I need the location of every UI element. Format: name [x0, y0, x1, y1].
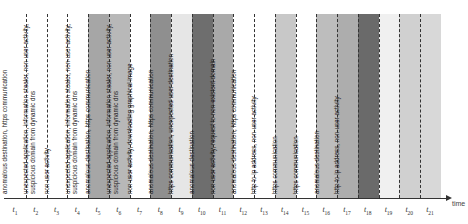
time-tick-label: t19	[379, 205, 399, 216]
time-tick-label: t4	[67, 205, 87, 216]
interval-separator	[420, 14, 421, 198]
time-tick-label: t6	[109, 205, 129, 216]
interval-label: http to ip address, non-user activity	[333, 14, 468, 194]
time-tick-label: t17	[337, 205, 357, 216]
timeline-diagram: software update, anomalous destinationt1…	[0, 0, 468, 224]
time-tick-label: t14	[275, 205, 295, 216]
time-axis	[4, 198, 448, 199]
time-tick-label: t1	[5, 205, 25, 216]
time-tick-label: t3	[47, 205, 67, 216]
axis-label: time	[452, 200, 465, 207]
time-tick-label: t20	[399, 205, 419, 216]
time-tick-label: t18	[358, 205, 378, 216]
timeline-interval: http to ip address, non-user activity	[420, 14, 441, 198]
time-tick-label: t11	[213, 205, 233, 216]
time-tick-label: t8	[150, 205, 170, 216]
time-tick-label: t13	[254, 205, 274, 216]
time-tick-label: t12	[233, 205, 253, 216]
time-tick-label: t16	[316, 205, 336, 216]
time-tick-label: t10	[192, 205, 212, 216]
time-tick-label: t5	[88, 205, 108, 216]
time-tick-label: t2	[26, 205, 46, 216]
time-tick-label: t21	[420, 205, 440, 216]
time-tick-label: t9	[171, 205, 191, 216]
time-tick-label: t15	[296, 205, 316, 216]
time-tick-label: t7	[130, 205, 150, 216]
